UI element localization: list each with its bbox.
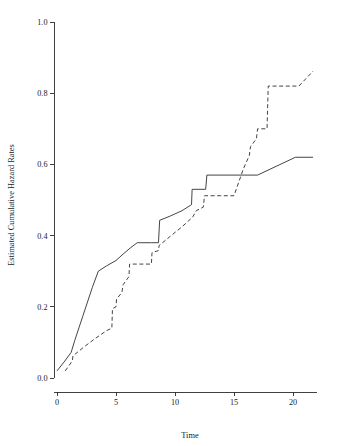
y-tick-label: 0.2 — [37, 303, 47, 312]
y-axis-title: Estimated Cumulative Hazard Rates — [7, 144, 16, 266]
x-tick-label: 10 — [171, 398, 179, 407]
y-axis-group: 0.00.20.40.60.81.0 — [37, 18, 54, 383]
hazard-rate-chart: 0.00.20.40.60.81.0 05101520 Time Estimat… — [0, 0, 345, 446]
y-tick-label: 0.6 — [37, 160, 47, 169]
x-axis-title: Time — [181, 431, 199, 440]
y-tick-label: 0.0 — [37, 374, 47, 383]
y-tick-label: 0.4 — [37, 232, 47, 241]
solid-curve — [57, 157, 313, 371]
x-tick-label: 15 — [230, 398, 238, 407]
x-tick-label: 0 — [55, 398, 59, 407]
y-axis-ticks: 0.00.20.40.60.81.0 — [37, 18, 54, 383]
y-tick-label: 0.8 — [37, 89, 47, 98]
plot-canvas: 0.00.20.40.60.81.0 05101520 Time Estimat… — [0, 0, 345, 446]
x-tick-label: 20 — [289, 398, 297, 407]
x-axis-group: 05101520 — [54, 392, 317, 407]
x-tick-label: 5 — [114, 398, 118, 407]
x-axis-ticks: 05101520 — [55, 392, 297, 407]
dashed-curve — [65, 71, 313, 371]
y-tick-label: 1.0 — [37, 18, 47, 27]
series-group — [57, 71, 313, 371]
